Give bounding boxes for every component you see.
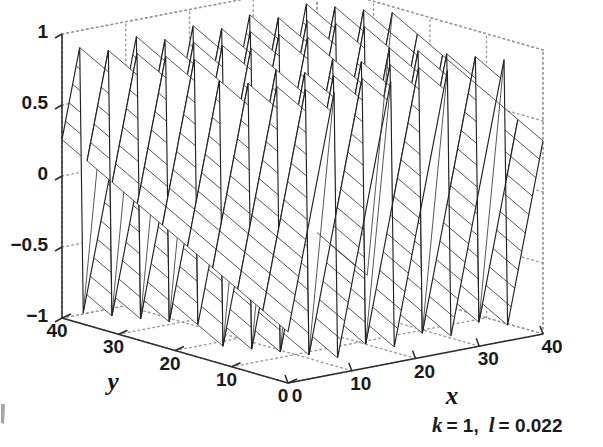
z-tick-label: 1 — [37, 21, 48, 42]
y-tick-label: 40 — [46, 320, 67, 341]
y-tick-label: 10 — [216, 369, 237, 390]
z-tick-label: −1 — [26, 305, 48, 326]
annotation-l-value: = 0.022 — [499, 415, 563, 436]
annotation-k-symbol: k — [432, 413, 443, 437]
z-tick-label: 0.5 — [22, 92, 49, 113]
z-tick-label: −0.5 — [10, 234, 48, 255]
y-tick-label: 20 — [159, 353, 180, 374]
x-tick-mark — [413, 351, 416, 359]
z-axis-tick-labels: 10.50−0.5−1 — [10, 21, 48, 326]
x-tick-label: 40 — [541, 336, 562, 357]
x-tick-label: 20 — [414, 361, 435, 382]
z-tick-label: 0 — [37, 163, 48, 184]
x-tick-label: 10 — [350, 373, 371, 394]
z-tick-mark — [55, 176, 62, 180]
annotation-l-symbol: l — [489, 413, 495, 437]
x-tick-label: 30 — [478, 348, 499, 369]
figure-3d-sawtooth-surface-plot: 10.50−0.5−1 403020100 010203040 y x k= 1… — [0, 0, 603, 447]
plot-canvas: 10.50−0.5−1 403020100 010203040 y x k= 1… — [0, 0, 603, 447]
x-tick-mark — [349, 363, 352, 371]
z-tick-mark — [55, 34, 62, 38]
scan-edge-artifact — [1, 404, 5, 424]
y-tick-label: 0 — [278, 385, 289, 406]
x-tick-mark — [476, 338, 479, 346]
annotation-k-value: = 1, — [447, 415, 479, 436]
mesh-surface — [62, 4, 543, 358]
annotation-text: k= 1,l= 0.022 — [432, 413, 563, 437]
z-tick-mark — [55, 105, 62, 109]
parameter-annotation: k= 1,l= 0.022 — [432, 413, 563, 437]
y-tick-label: 30 — [103, 336, 124, 357]
y-axis-label: y — [104, 368, 119, 395]
x-axis-label: x — [445, 382, 459, 409]
z-tick-mark — [55, 247, 62, 251]
x-tick-label: 0 — [292, 385, 303, 406]
